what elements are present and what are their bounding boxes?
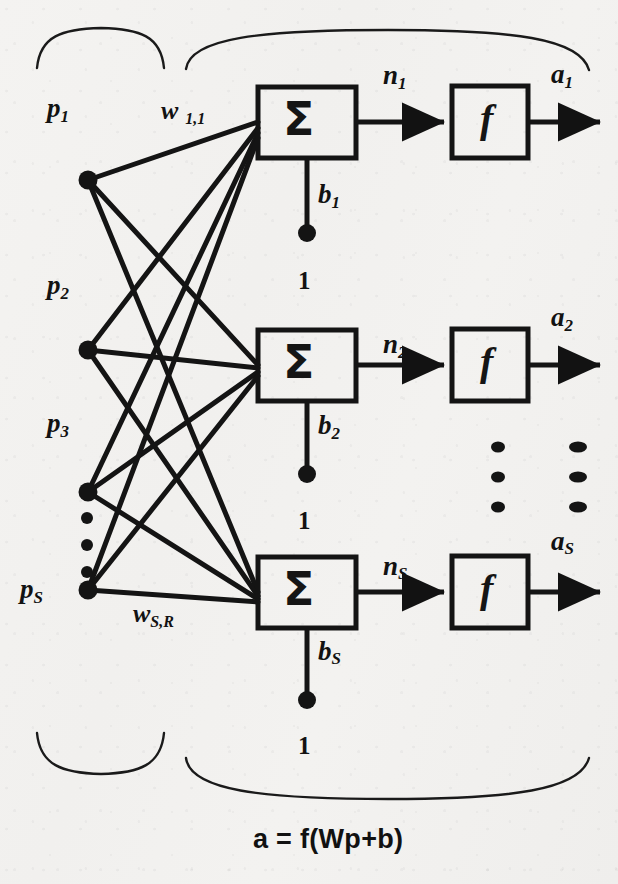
- figure-caption: a = f(Wp+b): [253, 824, 403, 855]
- bias-node-S: [298, 691, 316, 709]
- input-label-pS: pS: [20, 576, 43, 606]
- bias-node-1: [298, 224, 316, 242]
- weight-label-last: wS,R: [133, 601, 174, 630]
- input-label-p2: p2: [47, 272, 69, 302]
- output-label-2: a2: [551, 304, 573, 334]
- input-nodes: [79, 171, 98, 600]
- brace-top-left: [37, 28, 164, 68]
- brace-bottom-left: [37, 733, 164, 774]
- bias-input-2: 1: [298, 508, 311, 533]
- weight-line-3-1: [88, 133, 258, 492]
- sum-symbol-S: Σ: [283, 566, 314, 612]
- input-vertical-ellipsis: [81, 512, 93, 578]
- input-label-p1: p1: [47, 95, 69, 125]
- weight-label-first: w1,1: [161, 98, 205, 127]
- output-column-ellipsis: [569, 442, 587, 513]
- bias-label-1: b1: [318, 181, 340, 211]
- input-node-pS: [79, 581, 98, 600]
- figure-canvas: p1 p2 p3 pS w1,1 wS,R Σ f n1 a1 b1 1 Σ f…: [0, 0, 618, 884]
- bias-input-1: 1: [298, 268, 311, 293]
- output-label-S: aS: [551, 528, 574, 557]
- net-label-S: nS: [383, 553, 408, 582]
- transfer-symbol-1: f: [480, 99, 493, 139]
- bias-label-2: b2: [318, 412, 340, 442]
- brace-bottom-right: [186, 758, 589, 799]
- bias-input-S: 1: [298, 733, 311, 758]
- transfer-symbol-2: f: [480, 342, 493, 382]
- bias-node-2: [298, 465, 316, 483]
- bias-label-S: bS: [318, 638, 341, 667]
- neuron-column-ellipsis: [491, 442, 505, 513]
- input-label-p3: p3: [47, 410, 69, 440]
- weight-connections: [88, 122, 258, 602]
- input-node-p3: [79, 483, 98, 502]
- weight-line-1-1: [88, 122, 258, 180]
- weight-line-3-3: [88, 492, 258, 599]
- net-label-1: n1: [383, 62, 407, 92]
- sum-symbol-1: Σ: [283, 96, 314, 142]
- output-label-1: a1: [551, 61, 573, 91]
- input-node-p2: [79, 341, 98, 360]
- sum-symbol-2: Σ: [283, 339, 314, 385]
- transfer-symbol-S: f: [480, 569, 493, 609]
- net-label-2: n2: [383, 331, 407, 361]
- input-node-p1: [79, 171, 98, 190]
